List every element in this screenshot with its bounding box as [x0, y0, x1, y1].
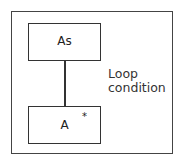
loop-condition-annotation: Loop condition	[108, 67, 166, 95]
parent-node-label: As	[29, 34, 100, 48]
child-node-label: A	[29, 118, 100, 132]
child-node-box: A *	[28, 106, 101, 144]
connector-line	[64, 61, 66, 106]
annotation-line-2: condition	[108, 81, 166, 95]
iteration-marker: *	[82, 111, 87, 122]
parent-node-box: As	[28, 23, 101, 61]
annotation-line-1: Loop	[108, 67, 166, 81]
